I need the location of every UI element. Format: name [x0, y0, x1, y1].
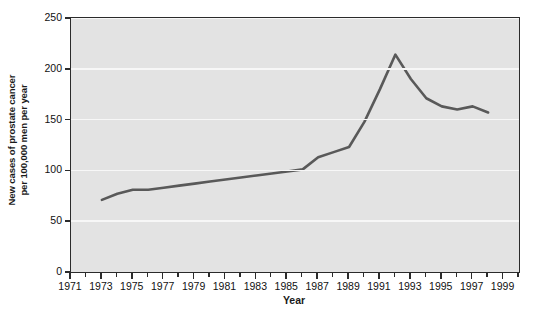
x-axis-title: Year — [70, 294, 518, 306]
gridline-y-100 — [71, 170, 519, 172]
x-tick-1991 — [378, 272, 380, 279]
x-tick-minor-1974 — [116, 272, 117, 277]
y-tick-100 — [65, 170, 71, 172]
x-tick-1977 — [162, 272, 164, 279]
x-tick-minor-1990 — [363, 272, 364, 277]
y-tick-label-150: 150 — [32, 114, 62, 125]
gridline-y-150 — [71, 119, 519, 121]
plot-area — [70, 17, 520, 273]
y-tick-200 — [65, 68, 71, 70]
y-tick-250 — [65, 17, 71, 19]
x-tick-label-1999: 1999 — [483, 281, 523, 292]
y-tick-50 — [65, 220, 71, 222]
x-tick-minor-1978 — [177, 272, 178, 277]
x-tick-minor-1976 — [147, 272, 148, 277]
x-tick-1975 — [131, 272, 133, 279]
x-tick-minor-1984 — [270, 272, 271, 277]
gridline-y-200 — [71, 68, 519, 70]
x-tick-1999 — [502, 272, 504, 279]
x-tick-1981 — [224, 272, 226, 279]
x-tick-minor-1980 — [208, 272, 209, 277]
x-tick-1995 — [440, 272, 442, 279]
y-tick-150 — [65, 119, 71, 121]
y-axis-title-line-1: New cases of prostate cancer — [6, 75, 18, 206]
x-tick-minor-1994 — [425, 272, 426, 277]
x-tick-minor-1982 — [239, 272, 240, 277]
x-axis-ticks — [70, 272, 518, 280]
y-axis-title-line-2: per 100,000 men per year — [18, 75, 30, 206]
y-axis-title: New cases of prostate cancer per 100,000… — [0, 0, 36, 280]
x-tick-1997 — [471, 272, 473, 279]
y-axis-tick-labels: 050100150200250 — [32, 0, 62, 310]
x-tick-1983 — [255, 272, 257, 279]
y-tick-label-50: 50 — [32, 215, 62, 226]
gridline-y-250 — [71, 18, 519, 19]
y-tick-label-0: 0 — [32, 266, 62, 277]
x-tick-minor-1986 — [301, 272, 302, 277]
x-tick-1987 — [316, 272, 318, 279]
x-tick-1993 — [409, 272, 411, 279]
x-tick-1985 — [285, 272, 287, 279]
x-tick-minor-1996 — [456, 272, 457, 277]
x-tick-minor-1988 — [332, 272, 333, 277]
x-tick-minor-2000 — [517, 272, 518, 277]
x-axis-tick-labels: 1971197319751977197919811983198519871989… — [0, 281, 540, 295]
plot-inner — [71, 18, 519, 272]
chart-figure: New cases of prostate cancer per 100,000… — [0, 0, 540, 310]
x-tick-1973 — [100, 272, 102, 279]
y-tick-label-100: 100 — [32, 164, 62, 175]
x-tick-minor-1998 — [486, 272, 487, 277]
x-tick-minor-1992 — [394, 272, 395, 277]
series-line-prostate-cancer — [71, 18, 519, 272]
y-tick-label-200: 200 — [32, 63, 62, 74]
y-tick-label-250: 250 — [32, 12, 62, 23]
x-tick-1979 — [193, 272, 195, 279]
x-tick-1971 — [69, 272, 71, 279]
x-tick-1989 — [347, 272, 349, 279]
x-tick-minor-1972 — [85, 272, 86, 277]
gridline-y-50 — [71, 220, 519, 222]
